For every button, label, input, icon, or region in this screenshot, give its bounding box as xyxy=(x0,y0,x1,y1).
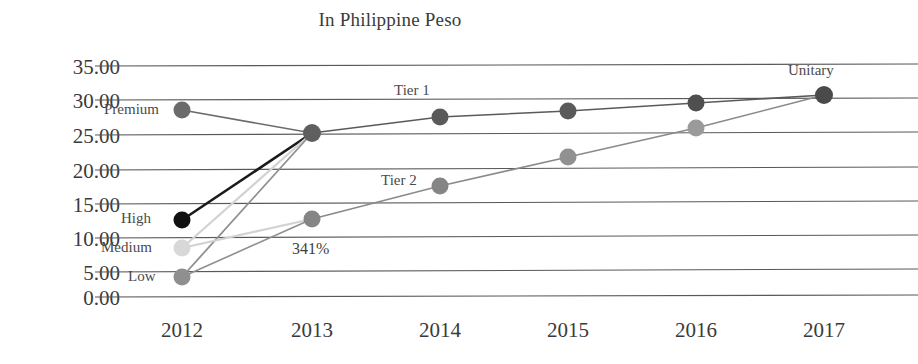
chart-container: In Philippine Peso 35.00 30.00 25.00 20.… xyxy=(0,0,918,364)
series-label-unitary: Unitary xyxy=(788,62,834,79)
marker-low-2012[interactable] xyxy=(174,269,191,286)
marker-medium-2012[interactable] xyxy=(174,240,191,257)
line-premium xyxy=(182,110,312,133)
data-point-markers xyxy=(174,86,834,286)
gridline-20 xyxy=(95,167,918,170)
marker-tier2-2015[interactable] xyxy=(560,149,577,166)
series-label-tier-1: Tier 1 xyxy=(394,82,430,99)
series-label-tier-2: Tier 2 xyxy=(381,172,417,189)
gridline-15 xyxy=(95,201,918,204)
gridlines xyxy=(95,64,918,297)
gridline-5 xyxy=(95,269,918,272)
marker-tier2-2013[interactable] xyxy=(304,211,321,228)
gridline-25 xyxy=(95,132,918,135)
gridline-30 xyxy=(95,98,918,100)
marker-tier2-2014[interactable] xyxy=(432,178,449,195)
marker-unitary-2017[interactable] xyxy=(815,86,833,104)
marker-tier2-2016[interactable] xyxy=(688,120,705,137)
line-high xyxy=(182,133,312,220)
marker-high-2012[interactable] xyxy=(174,212,191,229)
series-lines xyxy=(182,95,824,277)
line-medium-to-tier1 xyxy=(182,133,312,248)
marker-tier1-2014[interactable] xyxy=(432,109,449,126)
series-label-medium: Medium xyxy=(101,239,152,256)
marker-tier1-2015[interactable] xyxy=(560,103,577,120)
series-label-high: High xyxy=(121,210,151,227)
series-label-low: Low xyxy=(128,268,156,285)
plot-area xyxy=(0,0,918,364)
gridline-0 xyxy=(95,295,918,297)
annotation-growth-percent: 341% xyxy=(292,240,329,258)
marker-premium-2012[interactable] xyxy=(174,102,191,119)
series-label-premium: Premium xyxy=(104,101,159,118)
marker-tier1-2013[interactable] xyxy=(303,124,321,142)
marker-tier1-2016[interactable] xyxy=(688,95,705,112)
